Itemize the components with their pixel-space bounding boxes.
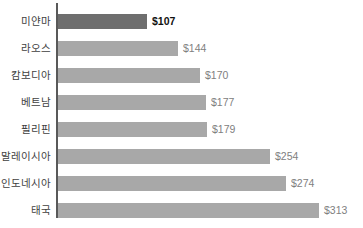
bar bbox=[58, 41, 178, 56]
bar-row: 미얀마 $107 bbox=[0, 14, 363, 29]
category-label: 인도네시아 bbox=[0, 174, 51, 193]
category-label: 라오스 bbox=[0, 39, 51, 58]
value-label: $179 bbox=[212, 120, 235, 139]
bar bbox=[58, 68, 200, 83]
bar bbox=[58, 95, 206, 110]
value-label: $313 bbox=[324, 201, 347, 220]
bar bbox=[58, 122, 207, 137]
chart-plot-area: 미얀마 $107 라오스 $144 캄보디아 $170 베트남 $177 필리핀… bbox=[0, 0, 363, 228]
bar bbox=[58, 176, 286, 191]
value-label: $254 bbox=[275, 147, 298, 166]
category-label: 태국 bbox=[0, 201, 51, 220]
value-label: $274 bbox=[291, 174, 314, 193]
bar bbox=[58, 203, 319, 218]
category-label: 말레이시아 bbox=[0, 147, 51, 166]
bar-row: 필리핀 $179 bbox=[0, 122, 363, 137]
bar-row: 캄보디아 $170 bbox=[0, 68, 363, 83]
value-label: $177 bbox=[211, 93, 234, 112]
bar-row: 태국 $313 bbox=[0, 203, 363, 218]
bar-row: 베트남 $177 bbox=[0, 95, 363, 110]
value-label: $144 bbox=[183, 39, 206, 58]
bar bbox=[58, 149, 270, 164]
value-label: $170 bbox=[205, 66, 228, 85]
bar-row: 라오스 $144 bbox=[0, 41, 363, 56]
category-label: 베트남 bbox=[0, 93, 51, 112]
value-label: $107 bbox=[152, 12, 175, 31]
bar-row: 말레이시아 $254 bbox=[0, 149, 363, 164]
category-label: 캄보디아 bbox=[0, 66, 51, 85]
bar-chart: 미얀마 $107 라오스 $144 캄보디아 $170 베트남 $177 필리핀… bbox=[0, 0, 363, 228]
bar-row: 인도네시아 $274 bbox=[0, 176, 363, 191]
category-label: 미얀마 bbox=[0, 12, 51, 31]
bar bbox=[58, 14, 147, 29]
category-label: 필리핀 bbox=[0, 120, 51, 139]
